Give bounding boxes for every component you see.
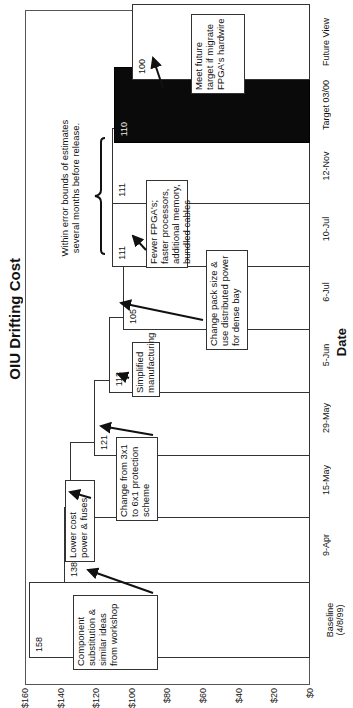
brace-icon <box>95 138 105 254</box>
